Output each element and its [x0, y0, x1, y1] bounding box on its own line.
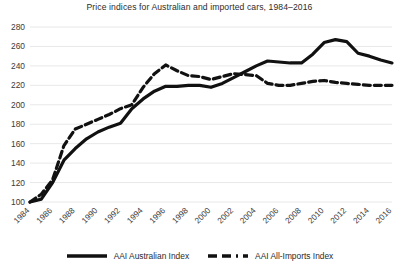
gridlines: [30, 27, 392, 202]
legend-entry-all-imports: AAI All-Imports Index: [207, 251, 333, 261]
x-axis-tick-label: 2012: [329, 206, 349, 226]
x-axis-tick-label: 1990: [80, 206, 100, 226]
x-axis-tick-label: 1992: [103, 206, 123, 226]
x-axis-tick-label: 1994: [125, 206, 145, 226]
chart-plot-area: 280260240220200180160140120100 198419861…: [0, 0, 399, 246]
y-axis-tick-label: 220: [11, 80, 25, 90]
x-axis-tick-label: 2008: [284, 206, 304, 226]
legend-swatch-dashed-icon: [207, 251, 249, 261]
y-axis-tick-label: 260: [11, 41, 25, 51]
x-axis-tick-labels: 1984198619881990199219941996199820002002…: [12, 206, 394, 226]
x-axis-tick-label: 2016: [374, 206, 394, 226]
x-axis-tick-label: 1986: [35, 206, 55, 226]
x-axis-tick-label: 2014: [352, 206, 372, 226]
y-axis-tick-label: 120: [11, 178, 25, 188]
y-axis-tick-label: 160: [11, 139, 25, 149]
y-axis-tick-label: 180: [11, 119, 25, 129]
legend-label-all-imports: AAI All-Imports Index: [255, 251, 333, 261]
x-axis-tick-label: 2000: [193, 206, 213, 226]
y-axis-tick-label: 200: [11, 100, 25, 110]
y-axis-tick-labels: 280260240220200180160140120100: [11, 22, 25, 207]
x-axis-tick-label: 2006: [261, 206, 281, 226]
legend-entry-australian: AAI Australian Index: [66, 251, 189, 261]
series-line-australian: [30, 40, 392, 202]
legend-label-australian: AAI Australian Index: [114, 251, 189, 261]
y-axis-tick-label: 280: [11, 22, 25, 32]
data-series-group: [30, 40, 392, 202]
x-axis-tick-label: 2004: [238, 206, 258, 226]
x-axis-tick-label: 1996: [148, 206, 168, 226]
y-axis-tick-label: 240: [11, 61, 25, 71]
chart-legend: AAI Australian Index AAI All-Imports Ind…: [0, 246, 399, 266]
y-axis-tick-label: 140: [11, 158, 25, 168]
x-axis-tick-label: 1984: [12, 206, 32, 226]
x-axis-tick-label: 2002: [216, 206, 236, 226]
x-axis-tick-label: 1988: [57, 206, 77, 226]
legend-swatch-solid-icon: [66, 251, 108, 261]
y-axis-tick-label: 100: [11, 197, 25, 207]
x-axis-tick-label: 2010: [306, 206, 326, 226]
x-axis-tick-label: 1998: [171, 206, 191, 226]
chart-container: Price indices for Australian and importe…: [0, 0, 399, 270]
